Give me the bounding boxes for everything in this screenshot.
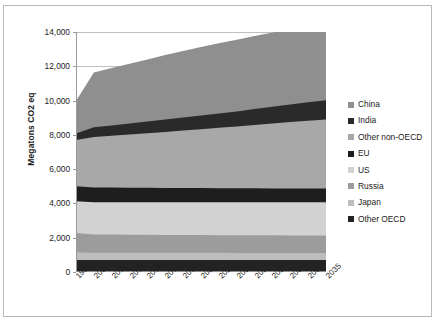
- x-axis-tick-label: 2035: [324, 261, 343, 280]
- y-axis-tick-label: 6,000: [49, 164, 70, 174]
- chart-frame: Megatons CO2 eq 14,00012,00010,0008,0006…: [3, 5, 432, 317]
- legend-item-label: China: [358, 100, 380, 109]
- legend-item[interactable]: Other OECD: [348, 215, 436, 224]
- legend-item-label: Other non-OECD: [358, 133, 422, 142]
- legend-item[interactable]: EU: [348, 149, 436, 158]
- legend-item-label: EU: [358, 149, 370, 158]
- legend-item-label: US: [358, 166, 370, 175]
- legend-item[interactable]: China: [348, 100, 436, 109]
- y-axis-tick-labels: 14,00012,00010,0008,0006,0004,0002,0000: [4, 32, 70, 272]
- chart-legend: ChinaIndiaOther non-OECDEUUSRussiaJapanO…: [348, 100, 436, 231]
- y-axis-tick-label: 12,000: [45, 61, 70, 71]
- legend-item-label: Russia: [358, 182, 384, 191]
- legend-swatch-icon: [348, 151, 354, 157]
- y-axis-tick-label: 4,000: [49, 198, 70, 208]
- legend-swatch-icon: [348, 134, 354, 140]
- y-axis-tick-label: 14,000: [45, 27, 70, 37]
- y-axis-tick-label: 10,000: [45, 96, 70, 106]
- y-axis-tick-label: 0: [65, 267, 70, 277]
- legend-item[interactable]: Japan: [348, 198, 436, 207]
- legend-swatch-icon: [348, 216, 354, 222]
- legend-swatch-icon: [348, 102, 354, 108]
- x-axis-tick-labels: 1990200920112013201520172019202120232025…: [76, 274, 330, 318]
- legend-swatch-icon: [348, 167, 354, 173]
- legend-item[interactable]: US: [348, 166, 436, 175]
- legend-item-label: Other OECD: [358, 215, 405, 224]
- plot-area: [76, 32, 326, 272]
- legend-swatch-icon: [348, 200, 354, 206]
- legend-swatch-icon: [348, 118, 354, 124]
- legend-item[interactable]: India: [348, 116, 436, 125]
- y-axis-line: [76, 32, 77, 272]
- legend-item-label: India: [358, 116, 376, 125]
- legend-swatch-icon: [348, 183, 354, 189]
- legend-item[interactable]: Russia: [348, 182, 436, 191]
- y-axis-tick-label: 2,000: [49, 233, 70, 243]
- stacked-area-series: [76, 32, 326, 272]
- legend-item-label: Japan: [358, 198, 381, 207]
- legend-item[interactable]: Other non-OECD: [348, 133, 436, 142]
- y-axis-tick-label: 8,000: [49, 130, 70, 140]
